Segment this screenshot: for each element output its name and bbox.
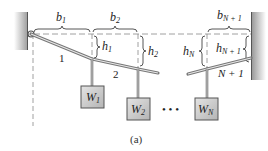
hanging-cable-diagram: W1 W2 WN • • • b1 b2 bN + 1 h1 h2 hN hN … xyxy=(0,0,268,151)
caption: (a) xyxy=(130,133,143,146)
span-bn1: bN + 1 xyxy=(217,8,242,23)
height-h2: h2 xyxy=(148,44,158,59)
segment-2: 2 xyxy=(113,68,119,80)
right-wall xyxy=(252,12,267,80)
height-hn1: hN + 1 xyxy=(216,41,241,56)
hanging-ropes xyxy=(92,59,207,98)
segment-n1: N + 1 xyxy=(217,67,244,79)
ellipsis: • • • xyxy=(162,103,179,115)
weight-wn: WN xyxy=(195,98,218,120)
segment-1: 1 xyxy=(59,52,65,64)
weight-w1: W1 xyxy=(81,86,104,108)
height-hn: hN xyxy=(183,44,195,59)
height-h1: h1 xyxy=(102,39,112,54)
span-braces xyxy=(34,26,250,32)
span-b2: b2 xyxy=(110,10,120,25)
vertical-guides xyxy=(33,34,207,126)
left-wall xyxy=(14,12,34,50)
weight-w2: W2 xyxy=(127,98,150,120)
span-b1: b1 xyxy=(56,10,66,25)
